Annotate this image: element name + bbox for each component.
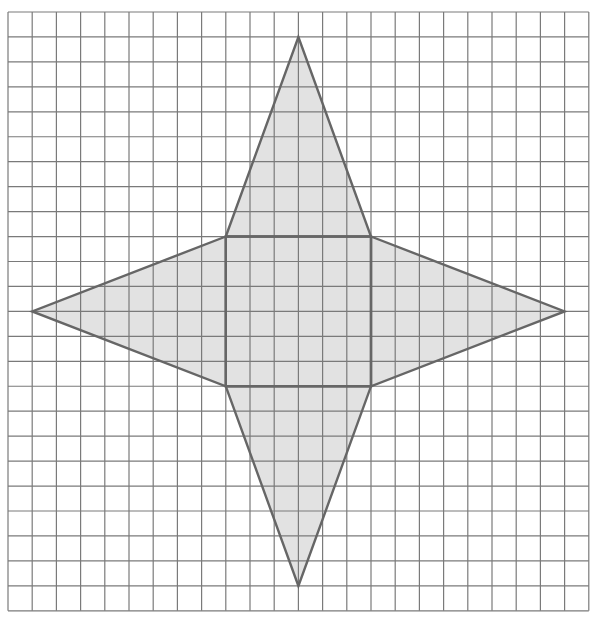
pyramid-net-diagram (0, 0, 597, 624)
